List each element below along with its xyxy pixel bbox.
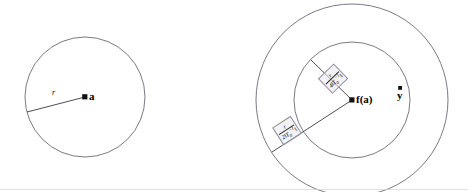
image-center-label: f(a) (356, 94, 373, 105)
domain-center-point (82, 94, 87, 99)
domain-radius-line (27, 97, 85, 112)
lower-den-norm-close: ‖ (293, 126, 297, 132)
domain-center-label: a (89, 91, 95, 102)
lower-den-sub: 0 (289, 133, 294, 138)
y-point-label: y (397, 90, 403, 101)
right-diagram-group (256, 4, 448, 192)
image-center-point (349, 97, 354, 102)
upper-den-norm-close: ‖ (338, 73, 343, 78)
left-diagram-group (25, 37, 145, 157)
domain-radius-label: r (52, 89, 55, 97)
